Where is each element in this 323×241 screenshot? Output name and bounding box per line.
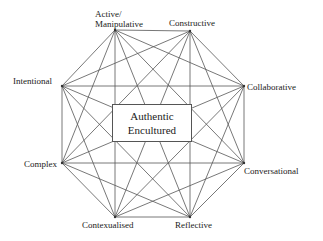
node-dot (114, 29, 116, 31)
node-dot (243, 85, 245, 87)
node-dot (61, 85, 63, 87)
label-active-manipulative: Active/ Manipulative (95, 9, 143, 29)
label-complex: Complex (24, 159, 57, 169)
label-collaborative: Collaborative (247, 82, 296, 92)
edge (115, 163, 244, 217)
edge (190, 163, 244, 217)
label-reflective: Reflective (175, 220, 212, 230)
edge (62, 31, 190, 163)
center-box: Authentic Encultured (112, 104, 192, 142)
edge (62, 163, 190, 217)
node-dot (114, 216, 116, 218)
label-active-line2: Manipulative (95, 19, 143, 29)
diagram: Authentic Encultured Active/ Manipulativ… (0, 0, 323, 241)
label-constructive: Constructive (169, 18, 215, 28)
node-dot (61, 162, 63, 164)
edge (62, 30, 115, 163)
center-label-line1: Authentic (130, 109, 173, 123)
label-contexualised: Contexualised (82, 220, 134, 230)
label-active-line1: Active/ (95, 9, 143, 19)
node-dot (243, 162, 245, 164)
label-intentional: Intentional (13, 76, 52, 86)
edge (62, 163, 115, 217)
edge (62, 30, 115, 86)
edge (190, 31, 244, 86)
node-dot (189, 216, 191, 218)
node-dot (189, 30, 191, 32)
edge (62, 86, 115, 217)
label-conversational: Conversational (244, 166, 299, 176)
edge (115, 30, 190, 31)
center-label-line2: Encultured (128, 123, 176, 137)
edge (115, 30, 244, 163)
